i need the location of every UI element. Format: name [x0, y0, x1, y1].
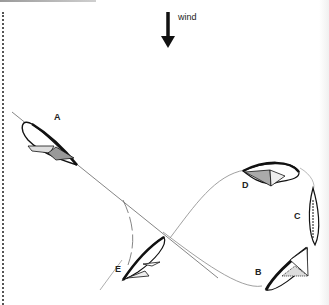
- wind-arrow-icon: [161, 12, 175, 48]
- sailing-diagram: [0, 0, 329, 305]
- boat-c: [309, 188, 318, 245]
- boat-label-e: E: [115, 264, 121, 274]
- boat-label-c: C: [294, 211, 301, 221]
- curved-track-bottom: [163, 232, 262, 286]
- boat-label-a: A: [54, 112, 61, 122]
- boat-label-b: B: [255, 267, 262, 277]
- boat-a: [22, 122, 77, 165]
- boat-d: [243, 163, 299, 186]
- boat-e: [123, 237, 165, 280]
- dashed-arc: [123, 200, 133, 265]
- boat-b: [266, 248, 308, 290]
- curved-track-line: [170, 170, 245, 238]
- curved-track-right: [300, 168, 314, 190]
- boat-label-d: D: [242, 180, 249, 190]
- wind-label: wind: [178, 12, 197, 22]
